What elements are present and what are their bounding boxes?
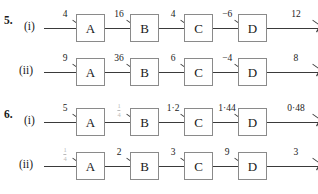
function-machine-track: 9366−48ABCD	[44, 50, 318, 94]
flow-value-label: 4	[63, 10, 68, 20]
flow-value-label: 3	[294, 148, 299, 158]
flow-arrow	[260, 122, 318, 123]
flow-value-label: 5	[63, 104, 68, 114]
function-machine-box-b: B	[130, 152, 159, 180]
function-machine-box-a: A	[76, 58, 105, 86]
function-machine-box-c: C	[184, 14, 213, 42]
flow-arrow	[260, 72, 318, 73]
flow-value-label: 16	[114, 10, 124, 20]
function-machine-box-a: A	[76, 14, 105, 42]
flow-arrow	[260, 28, 318, 29]
function-machine-box-b: B	[130, 14, 159, 42]
part-label: (ii)	[19, 64, 33, 76]
flow-value-label: 8	[294, 54, 299, 64]
flow-value-label: 3	[171, 148, 176, 158]
part-label: (i)	[24, 114, 35, 126]
flow-arrow	[44, 122, 78, 123]
flow-value-label: 0·48	[287, 104, 304, 114]
flow-value-label: 1·44	[218, 104, 235, 114]
flow-value-label: 9	[225, 148, 230, 158]
function-machine-box-a: A	[76, 152, 105, 180]
function-machine-box-d: D	[238, 152, 267, 180]
function-machine-track: 4164−612ABCD	[44, 6, 318, 50]
flow-value-label: 9	[63, 54, 68, 64]
function-machine-box-d: D	[238, 14, 267, 42]
flow-value-label: −4	[222, 54, 232, 64]
worksheet-page: 5. (i) 4164−612ABCD (ii) 9366−48ABCD 6. …	[0, 0, 318, 194]
flow-arrow	[260, 166, 318, 167]
function-machine-box-b: B	[130, 58, 159, 86]
chain-row: (ii) 9366−48ABCD	[0, 50, 318, 94]
function-machine-box-c: C	[184, 108, 213, 136]
function-machine-box-c: C	[184, 152, 213, 180]
flow-value-label: 4	[171, 10, 176, 20]
part-label: (i)	[24, 20, 35, 32]
function-machine-box-b: B	[130, 108, 159, 136]
chain-row: (ii) 142393ABCD	[0, 144, 318, 188]
part-label: (ii)	[19, 158, 33, 170]
flow-value-label: 6	[171, 54, 176, 64]
function-machine-box-a: A	[76, 108, 105, 136]
flow-value-label: 14	[117, 104, 120, 120]
flow-arrow	[44, 72, 78, 73]
flow-value-label: −6	[222, 10, 232, 20]
problem-group-5: 5. (i) 4164−612ABCD (ii) 9366−48ABCD	[0, 0, 318, 94]
function-machine-box-c: C	[184, 58, 213, 86]
function-machine-box-d: D	[238, 58, 267, 86]
flow-value-label: 1·2	[167, 104, 180, 114]
flow-arrow	[44, 28, 78, 29]
flow-value-label: 12	[291, 10, 301, 20]
function-machine-track: 142393ABCD	[44, 144, 318, 188]
problem-group-6: 6. (i) 5141·21·440·48ABCD (ii) 142393ABC…	[0, 94, 318, 194]
function-machine-box-d: D	[238, 108, 267, 136]
flow-arrow	[44, 166, 78, 167]
flow-value-label: 14	[63, 148, 66, 164]
chain-row: (i) 5141·21·440·48ABCD	[0, 100, 318, 144]
flow-value-label: 36	[114, 54, 124, 64]
function-machine-track: 5141·21·440·48ABCD	[44, 100, 318, 144]
chain-row: (i) 4164−612ABCD	[0, 6, 318, 50]
flow-value-label: 2	[117, 148, 122, 158]
